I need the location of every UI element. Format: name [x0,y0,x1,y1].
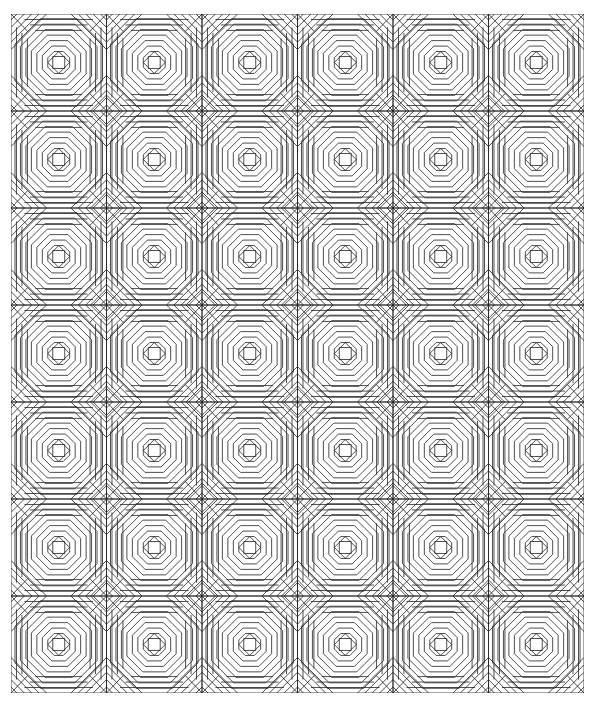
quilt-drawing [11,14,584,693]
quilt-lines [11,14,584,693]
pineapple-quilt-pattern [11,14,584,693]
